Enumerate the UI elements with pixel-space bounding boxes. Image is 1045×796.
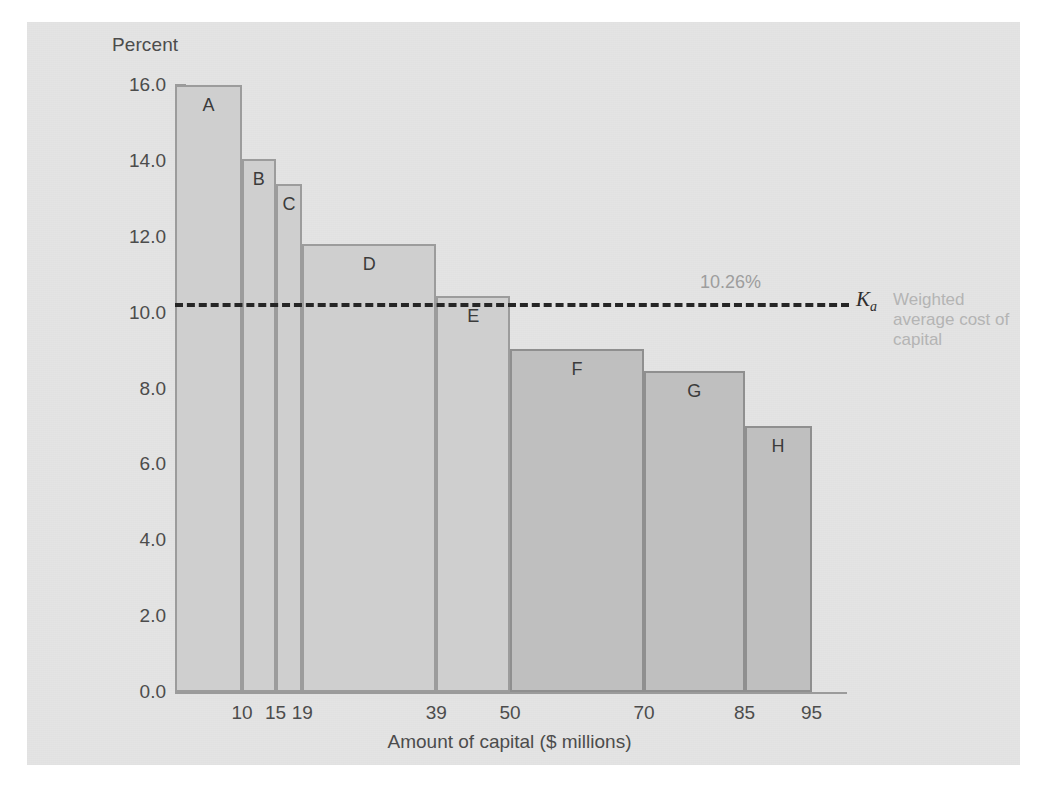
bar-h: H — [745, 426, 812, 692]
y-axis-tick-label: 8.0 — [140, 378, 166, 400]
x-axis-tick-label: 95 — [801, 702, 822, 724]
bar-label: D — [304, 254, 434, 275]
bar-label: F — [512, 359, 642, 380]
bar-f: F — [510, 349, 644, 692]
bar-label: C — [278, 194, 301, 215]
y-axis-tick-label: 12.0 — [129, 226, 166, 248]
x-axis-title: Amount of capital ($ millions) — [0, 731, 1045, 753]
y-axis-tick-label: 0.0 — [140, 681, 166, 703]
y-axis-tick-label: 14.0 — [129, 150, 166, 172]
y-axis-tick-label: 10.0 — [129, 302, 166, 324]
bar-label: B — [244, 169, 274, 190]
bar-label: A — [177, 95, 240, 116]
bar-label: H — [747, 436, 810, 457]
x-axis-tick-label: 50 — [499, 702, 520, 724]
wacc-value-label: 10.26% — [700, 272, 761, 293]
x-axis-tick-label: 10 — [231, 702, 252, 724]
x-axis-tick-label: 19 — [292, 702, 313, 724]
bar-d: D — [302, 244, 436, 692]
bar-g: G — [644, 371, 745, 692]
figure-root: Percent 0.02.04.06.08.010.012.014.016.0 … — [0, 0, 1045, 796]
x-axis-tick-label: 15 — [265, 702, 286, 724]
bar-e: E — [436, 296, 510, 692]
wacc-symbol-label: Ka — [856, 287, 877, 315]
plot-area: ABCDEFGH — [175, 85, 845, 692]
bar-label: E — [438, 306, 508, 327]
wacc-reference-line — [175, 303, 849, 307]
wacc-note-text: Weighted average cost of capital — [893, 290, 1013, 350]
x-axis-line — [175, 692, 847, 694]
x-axis-tick-label: 85 — [734, 702, 755, 724]
y-axis-tick-label: 4.0 — [140, 529, 166, 551]
y-axis-tick-label: 6.0 — [140, 453, 166, 475]
wacc-symbol-main: K — [856, 287, 870, 311]
bar-c: C — [276, 184, 303, 692]
bar-label: G — [646, 381, 743, 402]
bar-a: A — [175, 85, 242, 692]
x-axis-tick-label: 39 — [426, 702, 447, 724]
bar-b: B — [242, 159, 276, 692]
y-axis-tick-label: 2.0 — [140, 605, 166, 627]
y-axis-tick-label: 16.0 — [129, 74, 166, 96]
x-axis-tick-label: 70 — [633, 702, 654, 724]
y-axis-tick-labels: 0.02.04.06.08.010.012.014.016.0 — [108, 0, 166, 796]
x-axis-title-text: Amount of capital ($ millions) — [388, 731, 632, 752]
wacc-symbol-subscript: a — [870, 299, 877, 314]
